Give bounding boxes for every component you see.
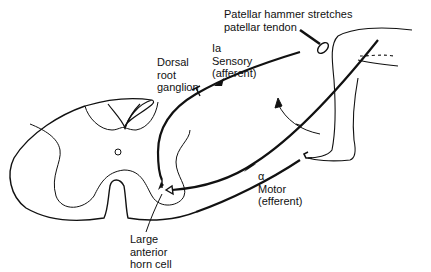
motor-label-line1: α (258, 170, 302, 183)
sensory-label-line2: Sensory (212, 55, 256, 68)
reflex-hammer-icon (300, 30, 330, 55)
motor-label-line3: (efferent) (258, 195, 302, 208)
sensory-label-line3: (afferent) (212, 67, 256, 80)
hammer-label: Patellar hammer stretches patellar tendo… (224, 8, 352, 33)
motor-label: α Motor (efferent) (258, 170, 302, 208)
sensory-label: Ia Sensory (afferent) (212, 42, 256, 80)
horn-cell-label-line2: anterior (130, 246, 172, 259)
sensory-label-line1: Ia (212, 42, 256, 55)
arrow-icon (158, 78, 256, 190)
drg-label: Dorsal root ganglion (157, 56, 199, 94)
reflex-arc-diagram: Patellar hammer stretches patellar tendo… (0, 0, 431, 272)
drg-label-line2: root (157, 69, 199, 82)
diagram-canvas (0, 0, 431, 272)
drg-label-line1: Dorsal (157, 56, 199, 69)
horn-cell-label: Large anterior horn cell (130, 233, 172, 271)
hammer-label-line2: patellar tendon (224, 21, 352, 34)
horn-cell-label-line3: horn cell (130, 258, 172, 271)
hammer-label-line1: Patellar hammer stretches (224, 8, 352, 21)
drg-label-line3: ganglion (157, 81, 199, 94)
horn-cell-label-line1: Large (130, 233, 172, 246)
horn-cell-icon (162, 180, 173, 194)
motor-label-line2: Motor (258, 183, 302, 196)
spinal-cord-icon (10, 98, 196, 220)
